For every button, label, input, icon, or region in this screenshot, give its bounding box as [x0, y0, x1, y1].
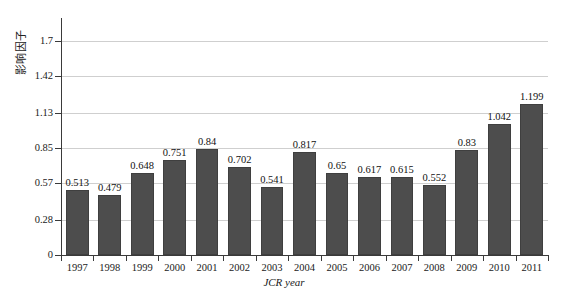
bar[interactable]: [423, 185, 446, 255]
bar[interactable]: [358, 177, 381, 255]
y-axis-label: 1.13: [3, 108, 53, 118]
bar[interactable]: [131, 173, 154, 255]
impact-factor-bar-chart: 影响因子 00.280.570.851.131.421.7 0.5130.479…: [0, 0, 568, 297]
bar[interactable]: [163, 160, 186, 255]
bar-value-label: 1.042: [477, 111, 521, 122]
x-axis-line: [61, 255, 549, 256]
y-axis-label-slot: 1.42: [0, 71, 53, 81]
bar[interactable]: [196, 149, 219, 255]
y-axis-label: 1.7: [3, 36, 53, 46]
x-axis-tick: [158, 256, 159, 261]
x-axis-tick: [223, 256, 224, 261]
y-axis-label: 0: [3, 250, 53, 260]
bar-value-label: 0.552: [412, 172, 456, 183]
y-axis-label: 0.85: [3, 143, 53, 153]
bar[interactable]: [488, 124, 511, 255]
y-axis-label-slot: 0.85: [0, 143, 53, 153]
bar[interactable]: [261, 187, 284, 255]
x-axis-label: 2011: [510, 262, 554, 274]
x-axis-tick: [353, 256, 354, 261]
y-axis-label-slot: 1.13: [0, 108, 53, 118]
x-axis-title: JCR year: [0, 276, 568, 288]
x-axis-tick: [418, 256, 419, 261]
x-axis-tick: [548, 256, 549, 261]
bar[interactable]: [326, 173, 349, 255]
bar-value-label: 0.817: [283, 139, 327, 150]
x-axis-tick: [191, 256, 192, 261]
y-axis-label: 0.28: [3, 215, 53, 225]
bar[interactable]: [391, 177, 414, 255]
x-axis-tick: [516, 256, 517, 261]
bar[interactable]: [455, 150, 478, 255]
bar[interactable]: [66, 190, 89, 255]
bar[interactable]: [228, 167, 251, 255]
x-axis-tick: [256, 256, 257, 261]
bar[interactable]: [98, 195, 121, 255]
bar-value-label: 0.751: [153, 147, 197, 158]
bar[interactable]: [293, 152, 316, 255]
x-axis-tick: [321, 256, 322, 261]
y-axis-label-slot: 0.28: [0, 215, 53, 225]
bar-value-label: 0.83: [445, 137, 489, 148]
x-axis-title-text: JCR year: [263, 276, 304, 288]
x-axis-tick: [61, 256, 62, 261]
x-axis-tick: [126, 256, 127, 261]
x-axis-tick: [483, 256, 484, 261]
y-axis-title: 影响因子: [12, 0, 28, 112]
y-axis-label-slot: 0.57: [0, 178, 53, 188]
bar-value-label: 0.541: [250, 174, 294, 185]
y-axis-label-slot: 0: [0, 250, 53, 260]
bar[interactable]: [520, 104, 543, 255]
bar-value-label: 0.479: [88, 182, 132, 193]
y-axis-label: 0.57: [3, 178, 53, 188]
bar-value-label: 0.84: [185, 136, 229, 147]
y-axis-label-slot: 1.7: [0, 36, 53, 46]
bar-value-label: 1.199: [510, 91, 554, 102]
x-axis-tick: [288, 256, 289, 261]
x-axis-tick: [93, 256, 94, 261]
bar-value-label: 0.648: [120, 160, 164, 171]
y-axis-label: 1.42: [3, 71, 53, 81]
x-axis-tick: [386, 256, 387, 261]
bar-value-label: 0.702: [218, 154, 262, 165]
x-axis-tick: [451, 256, 452, 261]
